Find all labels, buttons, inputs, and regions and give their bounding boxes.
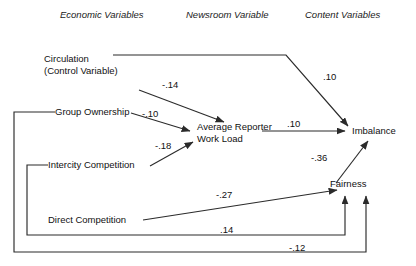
node-circulation-line1: Circulation <box>44 53 118 65</box>
edge-direct-fairness <box>143 190 337 220</box>
node-intercity-competition-label: Intercity Competition <box>48 159 135 171</box>
node-direct-competition: Direct Competition <box>48 214 126 226</box>
coefficient-circulation-workload: -.14 <box>162 79 178 90</box>
edge-fairness-imbalance <box>336 141 368 183</box>
edge-groupownership-fairness <box>14 112 366 252</box>
coefficient-intercity-workload: -.18 <box>155 140 171 151</box>
coefficient-groupownership-fairness: -.12 <box>289 242 305 253</box>
coefficient-groupownership-workload: -.10 <box>142 108 158 119</box>
node-fairness-label: Fairness <box>330 178 366 190</box>
coefficient-fairness-imbalance: -.36 <box>311 152 327 163</box>
column-header-content: Content Variables <box>305 9 380 20</box>
column-header-economic: Economic Variables <box>60 9 144 20</box>
node-group-ownership: Group Ownership <box>55 106 129 118</box>
node-direct-competition-label: Direct Competition <box>48 214 126 226</box>
node-average-reporter-work-load: Average Reporter Work Load <box>197 121 272 145</box>
node-imbalance: Imbalance <box>352 125 396 137</box>
edge-groupownership-workload <box>131 113 190 131</box>
node-intercity-competition: Intercity Competition <box>48 159 135 171</box>
node-work-load-line1: Average Reporter <box>197 121 272 133</box>
node-imbalance-label: Imbalance <box>352 125 396 137</box>
column-header-newsroom: Newsroom Variable <box>186 9 269 20</box>
coefficient-workload-imbalance: .10 <box>287 118 300 129</box>
node-circulation: Circulation (Control Variable) <box>44 53 118 77</box>
path-diagram: Economic Variables Newsroom Variable Con… <box>0 0 416 266</box>
coefficient-intercity-fairness: .14 <box>220 224 233 235</box>
node-group-ownership-label: Group Ownership <box>55 106 129 118</box>
coefficient-direct-fairness: -.27 <box>216 189 232 200</box>
node-work-load-line2: Work Load <box>197 133 272 145</box>
node-circulation-line2: (Control Variable) <box>44 65 118 77</box>
coefficient-circulation-imbalance: .10 <box>323 71 336 82</box>
node-fairness: Fairness <box>330 178 366 190</box>
